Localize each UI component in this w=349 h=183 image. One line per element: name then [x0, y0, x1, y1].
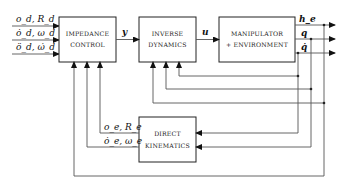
- signal-label-u: u: [202, 27, 209, 37]
- reference-inputs: o_d, R_d ȯ_d, ω_d ö_d, ω̇_d: [12, 14, 59, 54]
- direct-kinematics-block: DIRECT KINEMATICS: [139, 117, 196, 162]
- block-diagram: o_d, R_d ȯ_d, ω_d ö_d, ω̇_d IMPEDANCE CO…: [0, 0, 349, 183]
- input-label-pose: o_d, R_d: [16, 14, 55, 25]
- signal-label-he: h_e: [299, 14, 316, 24]
- manipulator-label-1: MANIPULATOR: [231, 30, 283, 37]
- signal-label-q: q: [301, 28, 307, 38]
- signal-label-pose-e: o_e, R_e: [104, 122, 142, 133]
- inverse-dynamics-block: INVERSE DYNAMICS: [139, 17, 196, 62]
- inverse-label-2: DYNAMICS: [148, 41, 186, 48]
- inverse-label-1: INVERSE: [152, 30, 184, 37]
- signal-label-y: y: [121, 27, 128, 37]
- manipulator-environment-block: MANIPULATOR + ENVIRONMENT: [219, 17, 295, 62]
- impedance-control-block: IMPEDANCE CONTROL: [59, 17, 116, 62]
- outputs: h_e q q̇: [295, 14, 335, 53]
- impedance-label-2: CONTROL: [70, 41, 105, 48]
- signal-label-qdot: q̇: [301, 42, 307, 52]
- input-label-velocity: ȯ_d, ω_d: [16, 28, 55, 39]
- kinematics-label-1: DIRECT: [154, 130, 181, 137]
- signal-label-vel-e: ȯ_e, ω_e: [104, 136, 142, 147]
- input-label-acceleration: ö_d, ω̇_d: [16, 42, 55, 53]
- kinematics-label-2: KINEMATICS: [145, 142, 190, 149]
- manipulator-label-2: + ENVIRONMENT: [226, 41, 289, 48]
- impedance-label-1: IMPEDANCE: [66, 30, 110, 37]
